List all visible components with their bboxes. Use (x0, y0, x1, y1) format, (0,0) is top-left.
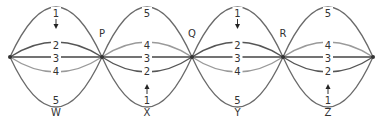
route-number-label: 4 (325, 40, 331, 51)
arrow-down-icon (54, 19, 59, 29)
node-point (8, 55, 12, 59)
route-number-label: 4 (144, 40, 150, 51)
segment-y: 12345Y (192, 7, 283, 118)
segment-w: 12345W (10, 7, 102, 118)
node-label-r: R (280, 28, 287, 39)
segment-z: 54321Z (283, 7, 373, 118)
node-point (281, 55, 285, 59)
route-number-label: 2 (234, 40, 240, 51)
route-number-label: 5 (144, 8, 150, 19)
route-number-label: 3 (53, 53, 59, 64)
segment-label: Z (325, 107, 332, 118)
node-point (100, 55, 104, 59)
segment-label: W (51, 107, 61, 118)
route-number-label: 3 (325, 53, 331, 64)
route-number-label: 1 (325, 95, 331, 106)
route-number-label: 4 (234, 66, 240, 77)
route-number-label: 5 (325, 8, 331, 19)
segment-label: Y (233, 107, 241, 118)
arrow-up-icon (145, 84, 150, 94)
arrow-down-icon (235, 19, 240, 29)
route-number-label: 2 (325, 66, 331, 77)
route-number-label: 1 (144, 95, 150, 106)
route-number-label: 3 (144, 53, 150, 64)
arrow-up-icon (326, 84, 331, 94)
route-number-label: 5 (234, 95, 240, 106)
lens-network-diagram: 12345W54321X12345Y54321ZPQR (0, 0, 380, 124)
route-number-label: 2 (144, 66, 150, 77)
segment-label: X (144, 107, 151, 118)
route-number-label: 1 (53, 8, 59, 19)
node-label-q: Q (188, 28, 196, 39)
route-number-label: 1 (234, 8, 240, 19)
segment-x: 54321X (102, 7, 192, 118)
node-point (190, 55, 194, 59)
route-number-label: 5 (53, 95, 59, 106)
route-number-label: 2 (53, 40, 59, 51)
route-number-label: 3 (234, 53, 240, 64)
node-label-p: P (99, 28, 105, 39)
node-point (371, 55, 375, 59)
route-number-label: 4 (53, 66, 59, 77)
